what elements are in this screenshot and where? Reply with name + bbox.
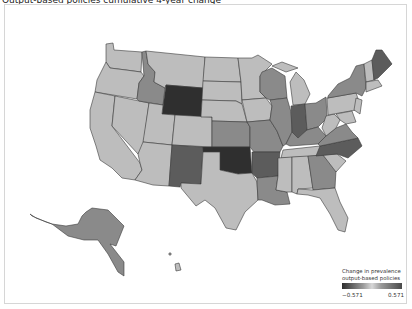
legend-ticks: −0.571 0.571 (342, 292, 404, 298)
legend-title-line1: Change in prevalence (342, 268, 404, 275)
state-new-york (328, 64, 366, 98)
state-wisconsin (260, 68, 287, 100)
state-arizona (135, 142, 172, 186)
legend-gradient-bar (342, 283, 402, 289)
state-new-mexico (169, 145, 203, 187)
state-colorado (172, 115, 212, 147)
state-florida (297, 188, 348, 232)
legend-title-line2: output-based policies (342, 275, 404, 282)
state-alaska (52, 208, 124, 276)
legend-min-label: −0.571 (342, 292, 363, 298)
state-mississippi (276, 157, 292, 192)
legend-max-label: 0.571 (388, 292, 404, 298)
state-maine (372, 50, 392, 80)
state-washington (106, 43, 142, 72)
state-north-dakota (203, 57, 241, 82)
state-alaska-islands (30, 214, 52, 224)
legend: Change in prevalence output-based polici… (342, 268, 404, 298)
state-hawaii (169, 253, 181, 271)
state-kansas (212, 121, 250, 147)
state-arkansas (252, 152, 280, 178)
state-montana (146, 51, 205, 88)
state-wyoming (162, 85, 203, 117)
state-massachusetts-ct-ri (366, 80, 382, 92)
us-choropleth-map (0, 0, 412, 309)
state-iowa (242, 98, 272, 122)
